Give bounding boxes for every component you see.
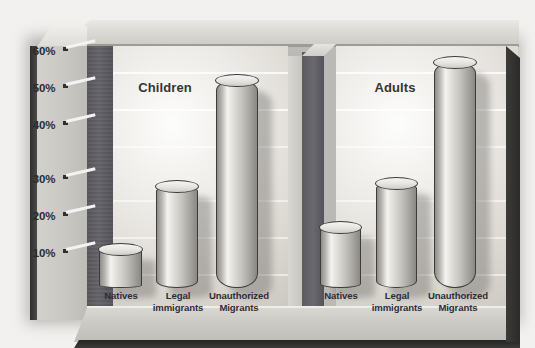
- category-label-line2: Migrants: [199, 302, 279, 314]
- bar-adults-natives[interactable]: [320, 227, 361, 288]
- gridline-40-adults: [336, 146, 518, 148]
- gridline-60-adults: [336, 72, 518, 74]
- group-title-adults: Adults: [345, 80, 445, 95]
- bar-top-cap: [215, 74, 259, 87]
- group-divider-inner: [288, 56, 303, 318]
- bar-top-cap: [155, 180, 199, 193]
- y-tick-label-40: 40%: [22, 119, 66, 131]
- group-divider-cap: [302, 44, 336, 56]
- category-label-line2: Migrants: [418, 302, 498, 314]
- category-label-adults-unauthorized-migrants: Unauthorized Migrants: [418, 290, 498, 313]
- bar-body: [156, 186, 198, 288]
- chart-floor-front: [74, 308, 520, 342]
- y-tick-label-20: 20%: [22, 210, 66, 222]
- bar-top-cap: [375, 177, 418, 190]
- bar-body: [376, 183, 417, 288]
- category-label-line1: Unauthorized: [199, 290, 279, 302]
- chart-top-bevel: [64, 20, 519, 46]
- y-tick-label-10: 10%: [22, 247, 66, 259]
- bar-body: [434, 62, 476, 288]
- y-tick-label-60: 60%: [22, 45, 66, 57]
- gridline-60: [113, 72, 288, 74]
- gridline-50-adults: [336, 109, 518, 111]
- category-label-line1: Unauthorized: [418, 290, 498, 302]
- bar-children-unauthorized-migrants[interactable]: [216, 80, 258, 288]
- bar-children-legal-immigrants[interactable]: [156, 186, 198, 288]
- y-tick-label-30: 30%: [22, 173, 66, 185]
- bar-body: [320, 227, 361, 288]
- bar-top-cap: [98, 243, 143, 256]
- bar-top-cap: [433, 56, 477, 69]
- chart-right-outer-edge: [506, 46, 520, 342]
- category-label-children-unauthorized-migrants: Unauthorized Migrants: [199, 290, 279, 313]
- chart-base-edge: [74, 340, 520, 348]
- bar-adults-legal-immigrants[interactable]: [376, 183, 417, 288]
- bar-body: [216, 80, 258, 288]
- bar-children-natives[interactable]: [99, 249, 142, 288]
- group-title-children: Children: [110, 80, 220, 95]
- bar-adults-unauthorized-migrants[interactable]: [434, 62, 476, 288]
- y-tick-label-50: 50%: [22, 82, 66, 94]
- bar-top-cap: [319, 221, 362, 234]
